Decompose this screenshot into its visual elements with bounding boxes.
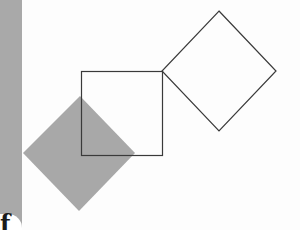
geometric-figure [0,0,300,230]
corner-letter-glyph: f [0,212,10,230]
outlined-diamond [162,11,276,131]
filled-gray-diamond [23,96,135,211]
diagram-canvas: f [0,0,300,230]
